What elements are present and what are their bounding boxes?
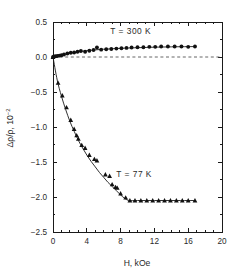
data-point [114,47,118,51]
data-point [136,45,140,49]
x-tick-label: 0 [51,237,56,246]
data-point [62,53,66,57]
annotation-77k: T = 77 K [116,169,152,179]
tick-labels: 0481216200.50.0−0.5−1.0−1.5−2.0−2.5 [31,18,227,246]
data-point [92,48,96,52]
data-point [72,51,76,55]
data-point [99,48,103,52]
data-point [69,51,73,55]
data-point [109,47,113,51]
data-point [186,45,190,49]
y-tick-label: −0.5 [31,88,48,97]
data-point [79,49,83,53]
data-point [107,174,112,178]
data-point [193,45,197,49]
data-point [159,45,163,49]
data-point [119,46,123,50]
y-tick-label: −2.5 [31,228,48,237]
annotation-300k: T = 300 K [110,26,151,36]
y-tick-label: −1.5 [31,158,48,167]
y-axis-label: Δρ/ρ, 10−2 [5,109,15,148]
data-point [173,45,177,49]
data-point [179,45,183,49]
data-point [110,182,115,186]
data-point [95,46,99,50]
y-tick-label: 0.5 [36,18,48,27]
data-point [130,46,134,50]
x-tick-label: 16 [184,237,194,246]
data-point [87,153,92,157]
magnetoresistance-chart: 0481216200.50.0−0.5−1.0−1.5−2.0−2.5 T = … [0,0,243,274]
data-point [125,46,129,50]
data-point [153,45,157,49]
x-tick-label: 8 [118,237,123,246]
x-tick-label: 4 [85,237,90,246]
y-tick-label: −2.0 [31,193,48,202]
data-point [83,50,87,54]
y-tick-label: −1.0 [31,123,48,132]
data-point [65,52,69,56]
y-axis-label-group: Δρ/ρ, 10−2 [5,109,15,148]
y-tick-label: 0.0 [36,53,48,62]
figure-container: 0481216200.50.0−0.5−1.0−1.5−2.0−2.5 T = … [0,0,243,274]
data-point [56,80,61,84]
data-point [104,47,108,51]
data-point [147,45,151,49]
x-axis-label: H, kOe [124,258,151,268]
data-point [103,172,108,176]
data-point [141,45,145,49]
data-point [87,49,91,53]
data-point [76,50,80,54]
data-point [166,45,170,49]
x-tick-label: 12 [150,237,160,246]
x-tick-label: 20 [217,237,227,246]
